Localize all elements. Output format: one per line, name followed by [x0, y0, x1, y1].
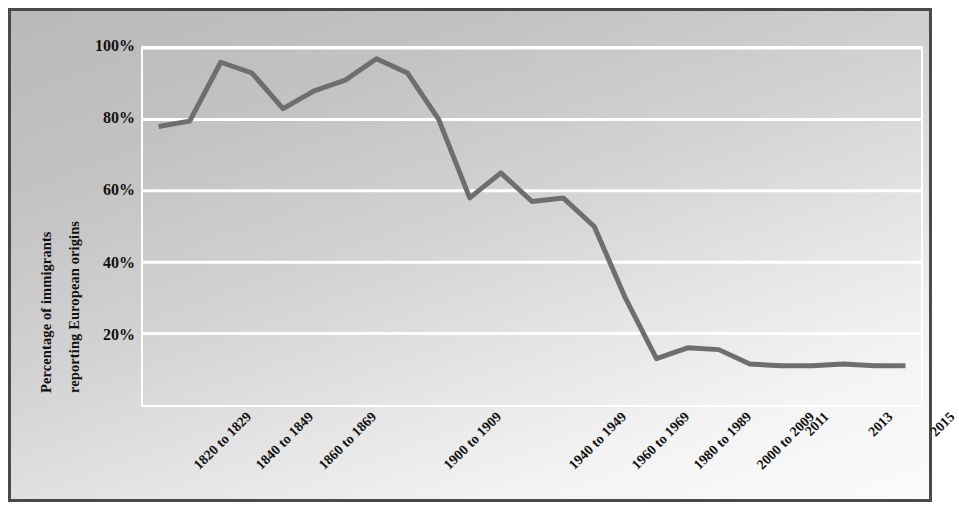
- x-tick-label-1820-to-1829: 1820 to 1829: [190, 409, 254, 473]
- x-tick-label-1840-to-1849: 1840 to 1849: [253, 409, 317, 473]
- x-tick-label-1960-to-1969: 1960 to 1969: [628, 409, 692, 473]
- data-series-line: [159, 59, 906, 366]
- y-tick-label-40%: 40%: [75, 254, 135, 272]
- y-axis-title-line-1: Percentage of immigrants: [38, 231, 55, 393]
- x-tick-label-2015: 2015: [928, 409, 959, 440]
- x-tick-label-1900-to-1909: 1900 to 1909: [441, 409, 505, 473]
- y-tick-label-100%: 100%: [75, 37, 135, 55]
- plot-canvas: [141, 46, 923, 407]
- y-tick-label-60%: 60%: [75, 181, 135, 199]
- y-tick-label-80%: 80%: [75, 109, 135, 127]
- y-tick-label-20%: 20%: [75, 326, 135, 344]
- chart-figure: Percentage of immigrants reporting Europ…: [8, 8, 932, 502]
- x-tick-label-1980-to-1989: 1980 to 1989: [691, 409, 755, 473]
- x-tick-label-2013: 2013: [865, 409, 896, 440]
- x-axis-tick-labels: 1820 to 18291840 to 18491860 to 18691900…: [141, 409, 931, 505]
- x-tick-label-1940-to-1949: 1940 to 1949: [566, 409, 630, 473]
- y-axis-tick-labels: 20%40%60%80%100%: [73, 11, 135, 505]
- line-chart-svg: [143, 48, 921, 405]
- x-tick-label-1860-to-1869: 1860 to 1869: [316, 409, 380, 473]
- gridlines: [143, 48, 921, 334]
- plot-area: [141, 46, 923, 407]
- x-tick-label-2000-to-2009: 2000 to 2009: [754, 409, 818, 473]
